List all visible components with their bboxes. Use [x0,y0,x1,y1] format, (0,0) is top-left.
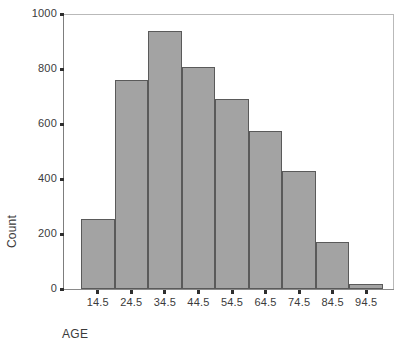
y-axis-tick-label: 400 [11,172,57,184]
x-axis-tick [365,290,368,294]
y-axis-tick-label: 200 [11,227,57,239]
x-axis-tick [231,290,234,294]
histogram-bar [148,31,182,290]
y-axis-tick-label: 800 [11,62,57,74]
x-axis-tick [130,290,133,294]
histogram-bar [316,242,350,289]
x-axis-tick [331,290,334,294]
y-axis-tick [60,233,64,236]
y-axis-tick-label: 1000 [11,7,57,19]
y-axis-tick-label: 600 [11,117,57,129]
y-axis-tick [60,123,64,126]
y-axis-tick [60,13,64,16]
histogram-bar [115,80,149,289]
x-axis-tick [197,290,200,294]
x-axis-tick [264,290,267,294]
y-axis-tick [60,68,64,71]
histogram-bar [182,67,216,289]
x-axis-tick [298,290,301,294]
histogram-bar [215,99,249,289]
histogram-bar [282,171,316,289]
x-axis-title: AGE [62,327,88,341]
histogram-bar [349,284,383,290]
y-axis-tick-label: 0 [11,282,57,294]
y-axis-line [63,13,64,291]
histogram-bar [81,219,115,289]
histogram-bar [249,131,283,289]
x-axis-tick-label: 94.5 [344,296,388,308]
y-axis-tick [60,288,64,291]
x-axis-line [63,289,394,290]
y-axis-tick [60,178,64,181]
x-axis-tick [96,290,99,294]
x-axis-tick [163,290,166,294]
histogram-chart: Count 02004006008001000 14.524.534.544.5… [0,0,416,355]
